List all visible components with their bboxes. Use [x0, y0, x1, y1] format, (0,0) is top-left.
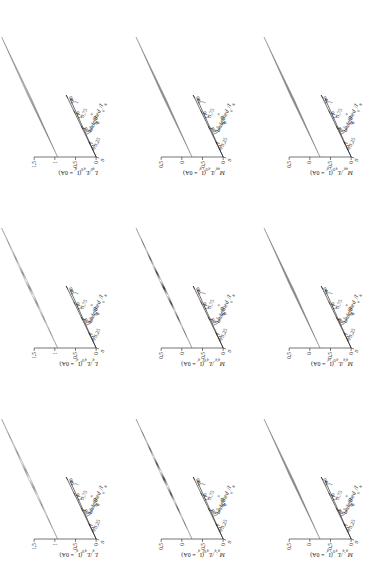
plot-panel-p23: 9018027036000,250,50,7510-0,500,5θ in °u…: [127, 0, 254, 191]
axes-lines: [0, 0, 127, 191]
z-tick-label: 0: [220, 543, 226, 546]
z-tick-label: 1: [52, 543, 58, 546]
z-tick-label: 0: [348, 543, 354, 546]
z-axis-label: Lq0/Lq'0(Iq' = 0A): [58, 170, 98, 176]
plot-panel-p22: 9018027036000,250,50,7510-0,500,5θ in °u…: [127, 191, 254, 382]
z-tick-label: 1: [52, 352, 58, 355]
z-tick-label: 0: [93, 161, 99, 164]
axes-lines: [0, 382, 127, 573]
z-tick-label: 0: [220, 161, 226, 164]
z-tick-label: 0: [93, 352, 99, 355]
z-tick-label: 1: [52, 161, 58, 164]
plot-panel-p33: 9018027036000,250,50,7510-0,500,5θ in °u…: [255, 0, 382, 191]
z-tick-label: 0,5: [286, 161, 292, 168]
z-tick-label: 0: [179, 352, 185, 355]
z-tick-label: 0: [179, 161, 185, 164]
z-tick-label: 1,5: [31, 161, 37, 168]
plot-panel-p32: 9018027036000,250,50,7510-0,500,5θ in °u…: [255, 191, 382, 382]
z-tick-label: 0: [306, 352, 312, 355]
plot-panel-p12: 9018027036000,250,50,75100,511,5θ in °un…: [0, 191, 127, 382]
z-tick-label: 0,5: [158, 543, 164, 550]
surface-plot-grid: 9018027036000,250,50,75100,511,5θ in °un…: [0, 0, 382, 573]
plot-panel-p11: 9018027036000,250,50,75100,511,5θ in °un…: [0, 382, 127, 573]
axes-lines: [127, 0, 254, 191]
z-axis-label: Lq'/Lq'0(Iq' = 0A): [60, 361, 99, 367]
z-tick-label: 0,5: [286, 352, 292, 359]
z-axis-label: Mq''q/Lq'0(Iq' = 0A): [310, 552, 353, 558]
z-tick-label: 0: [348, 352, 354, 355]
z-axis-label: Mqq''/Lq'0(Iq' = 0A): [310, 170, 353, 176]
axes-lines: [255, 0, 382, 191]
z-tick-label: 1,5: [31, 543, 37, 550]
z-tick-label: 0: [93, 543, 99, 546]
z-axis-label: Lq'/Lq'0(Iq' = 0A): [60, 552, 99, 558]
axes-lines: [127, 382, 254, 573]
z-axis-label: Mq''q'/Lq'0(Iq' = 0A): [182, 552, 226, 558]
z-tick-label: 0: [220, 352, 226, 355]
plot-panel-p13: 9018027036000,250,50,75100,511,5θ in °un…: [0, 0, 127, 191]
z-tick-label: 0: [348, 161, 354, 164]
z-axis-label: Mq'q''/Lq'0(Iq' = 0A): [182, 361, 226, 367]
z-axis-label: Mq'q/Lq'0(Iq' = 0A): [311, 361, 353, 367]
z-axis-label: Mqq'/Lq'0(Iq' = 0A): [183, 170, 225, 176]
axes-lines: [255, 382, 382, 573]
plot-panel-p21: 9018027036000,250,50,7510-0,500,5θ in °u…: [127, 382, 254, 573]
z-tick-label: 0,5: [158, 352, 164, 359]
axes-lines: [0, 191, 127, 382]
z-tick-label: 0,5: [158, 161, 164, 168]
plot-panel-p31: 9018027036000,250,50,7510-0,500,5θ in °u…: [255, 382, 382, 573]
z-tick-label: 0: [306, 543, 312, 546]
z-tick-label: 1,5: [31, 352, 37, 359]
figure-canvas: 9018027036000,250,50,75100,511,5θ in °un…: [0, 0, 382, 573]
z-tick-label: 0: [306, 161, 312, 164]
axes-lines: [127, 191, 254, 382]
axes-lines: [255, 191, 382, 382]
z-tick-label: 0: [179, 543, 185, 546]
z-tick-label: 0,5: [286, 543, 292, 550]
